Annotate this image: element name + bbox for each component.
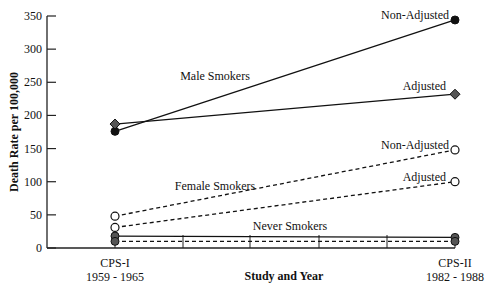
filled-circle-marker-icon <box>451 237 459 245</box>
y-tick-label: 50 <box>30 208 42 222</box>
x-category-label: 1982 - 1988 <box>426 270 484 284</box>
diamond-marker-icon <box>110 119 120 129</box>
filled-circle-marker-icon <box>451 16 459 24</box>
x-category-label: CPS-I <box>100 256 129 270</box>
y-tick-label: 0 <box>36 241 42 255</box>
y-tick-label: 300 <box>24 42 42 56</box>
open-circle-marker-icon <box>451 146 459 154</box>
series-line <box>115 94 455 124</box>
annotation-label: Never Smokers <box>253 219 328 233</box>
annotation-label: Non-Adjusted <box>381 8 449 22</box>
annotation-label: Male Smokers <box>180 69 250 83</box>
y-tick-label: 200 <box>24 108 42 122</box>
series-line <box>115 20 455 131</box>
x-category-label: CPS-II <box>438 256 471 270</box>
open-circle-marker-icon <box>451 178 459 186</box>
y-tick-label: 100 <box>24 175 42 189</box>
annotations-layer: Male SmokersFemale SmokersNever SmokersN… <box>175 8 449 233</box>
filled-circle-marker-icon <box>111 237 119 245</box>
x-axis-title: Study and Year <box>245 269 325 283</box>
x-category-label: 1959 - 1965 <box>86 270 144 284</box>
annotation-label: Adjusted <box>403 79 446 93</box>
annotation-label: Adjusted <box>403 170 446 184</box>
open-circle-marker-icon <box>111 223 119 231</box>
y-tick-label: 250 <box>24 75 42 89</box>
death-rate-chart: 050100150200250300350CPS-I1959 - 1965CPS… <box>0 0 485 288</box>
series-layer <box>110 16 460 245</box>
annotation-label: Female Smokers <box>175 179 256 193</box>
open-circle-marker-icon <box>111 212 119 220</box>
y-tick-label: 350 <box>24 9 42 23</box>
y-tick-label: 150 <box>24 142 42 156</box>
y-axis-title: Death Rate per 100,000 <box>7 72 21 192</box>
annotation-label: Non-Adjusted <box>381 138 449 152</box>
series-line <box>115 236 455 237</box>
diamond-marker-icon <box>450 89 460 99</box>
